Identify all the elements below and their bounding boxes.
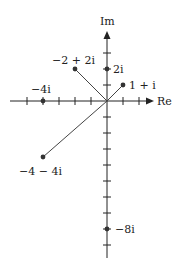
label-neg4-minus-4i: −4 − 4i — [19, 165, 62, 178]
vector-neg4-minus-4i — [43, 101, 107, 157]
points — [41, 67, 126, 232]
imaginary-axis — [103, 31, 111, 258]
vector-1-plus-i — [107, 85, 123, 101]
imaginary-axis-label: Im — [100, 15, 115, 28]
complex-plane-diagram: Im Re 1 + i −2 + 2i −4 − 4i 2i −4i −8i — [0, 0, 184, 274]
point-2i — [105, 67, 110, 72]
vector-neg2-plus-2i — [75, 69, 107, 101]
point-neg2-plus-2i — [73, 67, 78, 72]
point-neg4-minus-4i — [41, 155, 46, 160]
real-axis-label: Re — [157, 95, 172, 108]
label-1-plus-i: 1 + i — [129, 79, 156, 92]
label-neg4i: −4i — [31, 83, 51, 96]
real-axis-arrow-icon — [146, 98, 154, 105]
point-neg8i — [105, 227, 110, 232]
vectors — [43, 69, 123, 157]
point-neg4i — [41, 99, 46, 104]
label-neg8i: −8i — [115, 223, 135, 236]
imaginary-axis-arrow-icon — [104, 31, 111, 39]
label-2i: 2i — [113, 63, 124, 76]
real-axis — [10, 97, 154, 105]
point-1-plus-i — [121, 83, 126, 88]
label-neg2-plus-2i: −2 + 2i — [52, 54, 95, 67]
